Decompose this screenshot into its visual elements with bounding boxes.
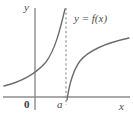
x-axis-label: x [119,101,124,112]
function-graph-figure: y x 0 a y = f(x) [0,0,133,119]
curve-right-branch [67,38,129,100]
y-axis-label: y [24,2,29,13]
asymptote-x-label: a [57,99,63,110]
plot-canvas [0,0,133,119]
origin-label: 0 [24,99,30,110]
function-equation-label: y = f(x) [74,13,107,24]
